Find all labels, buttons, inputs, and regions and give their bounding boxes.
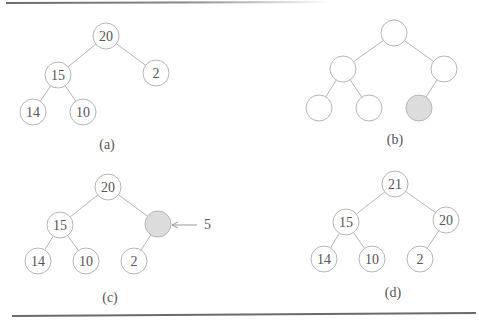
tree-edge xyxy=(40,86,50,101)
heap-insert-figure: 201521410(a)(b)2015141025(c)21152014102(… xyxy=(0,0,479,322)
node-value: 20 xyxy=(101,180,115,195)
tree-node xyxy=(330,56,356,82)
tree-edge xyxy=(331,233,340,248)
node-value: 2 xyxy=(417,252,424,267)
tree-edge xyxy=(68,44,96,67)
panel-caption: (b) xyxy=(387,132,404,148)
panel-c: 2015141025(c) xyxy=(25,174,211,306)
tree-edge xyxy=(141,235,151,250)
node-value: 15 xyxy=(51,68,65,83)
tree-edge xyxy=(354,40,384,61)
panel-caption: (c) xyxy=(102,290,118,306)
node-value: 15 xyxy=(339,215,353,230)
tree-edge xyxy=(426,80,437,97)
node-value: 21 xyxy=(388,177,402,192)
node-value: 10 xyxy=(79,254,93,269)
tree-edge xyxy=(326,80,336,97)
tree-edge xyxy=(45,236,53,250)
tree-edge xyxy=(65,86,75,101)
tree-edge xyxy=(350,80,362,97)
node-value: 14 xyxy=(26,105,40,120)
tree-node xyxy=(431,56,457,82)
top-rule xyxy=(6,2,330,3)
node-value: 2 xyxy=(153,66,160,81)
panel-b: (b) xyxy=(306,20,457,148)
panel-caption: (a) xyxy=(99,137,115,153)
node-value: 15 xyxy=(53,218,67,233)
highlighted-node xyxy=(406,95,432,121)
node-value: 14 xyxy=(31,254,45,269)
node-value: 2 xyxy=(131,254,138,269)
node-value: 10 xyxy=(365,252,379,267)
node-value: 20 xyxy=(99,29,113,44)
tree-edge xyxy=(116,44,145,66)
bottom-rule xyxy=(12,313,476,316)
node-value: 10 xyxy=(76,105,90,120)
tree-edge xyxy=(68,236,79,251)
tree-edge xyxy=(405,41,434,62)
panel-caption: (d) xyxy=(385,285,402,301)
tree-node xyxy=(356,95,382,121)
tree-node xyxy=(381,20,407,46)
tree-edge xyxy=(70,195,98,217)
tree-edge xyxy=(118,195,147,217)
panel-d: 21152014102(d) xyxy=(311,171,459,301)
node-value: 14 xyxy=(317,252,331,267)
tree-edge xyxy=(353,233,364,249)
tree-edge xyxy=(406,191,436,212)
tree-edge xyxy=(427,231,439,248)
tree-edge xyxy=(356,192,384,214)
figure-svg: 201521410(a)(b)2015141025(c)21152014102(… xyxy=(0,0,479,322)
inserted-value: 5 xyxy=(204,217,211,232)
node-value: 20 xyxy=(439,213,453,228)
tree-node xyxy=(306,95,332,121)
highlighted-node xyxy=(145,211,171,237)
panel-a: 201521410(a) xyxy=(20,23,169,153)
